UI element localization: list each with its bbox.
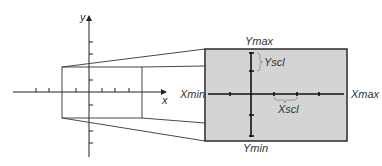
x-axis-label: x bbox=[161, 94, 168, 106]
xscl-label: Xscl bbox=[277, 103, 299, 115]
ymax-label: Ymax bbox=[245, 35, 274, 47]
coordinate-plane: y x bbox=[13, 11, 168, 157]
xmax-label: Xmax bbox=[350, 88, 380, 100]
xmin-label: Xmin bbox=[179, 88, 205, 100]
ymin-label: Ymin bbox=[243, 142, 268, 154]
y-axis-label: y bbox=[79, 11, 87, 23]
calculator-screen: Yscl Xscl bbox=[205, 49, 347, 141]
yscl-label: Yscl bbox=[264, 56, 285, 68]
x-axis-ticks bbox=[36, 88, 129, 92]
viewing-window-diagram: y x Ys bbox=[0, 0, 382, 166]
